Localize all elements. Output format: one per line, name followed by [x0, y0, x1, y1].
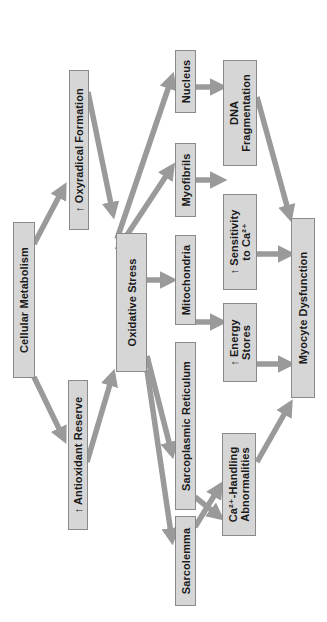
node-oxidative-stress: Oxidative Stress — [116, 233, 147, 372]
node-label: DNA Fragmentation — [228, 74, 252, 152]
node-label: Myocyte Dysfunction — [297, 252, 309, 365]
node-label: Myofibrils — [180, 154, 192, 207]
node-sarcolemma: Sarcolemma — [175, 516, 196, 606]
arrow-antioxidant-to-oxidative — [87, 374, 113, 462]
node-label: Sarcoplasmic Reticulum — [180, 361, 192, 491]
node-energy-stores: ↑ Energy Stores — [223, 303, 257, 382]
node-cellular-metabolism: Cellular Metabolism — [13, 222, 35, 378]
node-dna-fragmentation: DNA Fragmentation — [223, 60, 257, 166]
arrow-sr-to-ca — [195, 497, 220, 517]
arrow-metabolism-to-antioxidant — [34, 377, 64, 439]
arrow-metabolism-to-oxyradical — [34, 187, 64, 244]
node-label: Oxidative Stress — [126, 259, 138, 347]
node-label: Sarcolemma — [180, 528, 192, 594]
node-myofibrils: Myofibrils — [175, 143, 196, 217]
node-oxyradical-formation: ↑ Oxyradical Formation — [69, 70, 89, 230]
node-ca-handling-abnormalities: Ca²⁺-Handling Abnormalities — [222, 433, 256, 536]
node-nucleus: Nucleus — [175, 50, 196, 113]
node-label: Cellular Metabolism — [18, 247, 30, 353]
node-myocyte-dysfunction: Myocyte Dysfunction — [291, 218, 315, 398]
node-label: Nucleus — [180, 60, 192, 104]
node-label: Ca²⁺-Handling Abnormalities — [227, 447, 251, 523]
diagram-canvas: Cellular Metabolism ↑ Antioxidant Reserv… — [0, 0, 327, 622]
arrow-dna-to-myocyte — [257, 97, 290, 217]
arrow-oxyradical-to-oxidative — [88, 92, 113, 214]
arrow-ca-to-myocyte — [257, 404, 290, 462]
node-sensitivity-ca: ↑ Sensitivity to Ca²⁺ — [223, 194, 257, 290]
arrow-layer — [0, 0, 327, 622]
node-label: ↑ Antioxidant Reserve — [72, 397, 84, 514]
node-mitochondria: Mitochondria — [175, 235, 196, 325]
node-antioxidant-reserve: ↑ Antioxidant Reserve — [68, 380, 88, 530]
arrow-oxidative-to-nucleus — [117, 77, 172, 239]
node-label: ↑ Energy Stores — [228, 319, 252, 366]
node-label: ↑ Oxyradical Formation — [73, 88, 85, 212]
node-label: ↑ Sensitivity to Ca²⁺ — [228, 210, 252, 275]
node-sarcoplasmic-reticulum: Sarcoplasmic Reticulum — [175, 342, 196, 510]
node-label: Mitochondria — [180, 245, 192, 315]
